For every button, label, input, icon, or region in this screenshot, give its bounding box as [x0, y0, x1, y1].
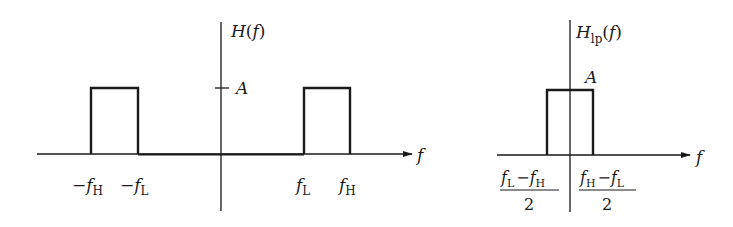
amplitude-a-label: A	[234, 78, 248, 98]
svg-text:2: 2	[602, 195, 612, 214]
svg-text:fH−fL: fH−fL	[579, 168, 625, 190]
positive-passband-pulse	[304, 88, 350, 154]
tick-neg-fl: −fL	[120, 175, 149, 198]
bandpass-plot: H(f) A f −fH −fL fL fH	[37, 21, 426, 211]
right-f-axis-label: f	[694, 147, 705, 167]
diagram-canvas: H(f) A f −fH −fL fL fH Hlp(f) A f fL−fH	[0, 0, 733, 227]
tick-neg-fh: −fH	[72, 175, 103, 198]
tick-neg-half-bandwidth: fL−fH 2	[500, 168, 559, 214]
tick-pos-half-bandwidth: fH−fL 2	[579, 168, 636, 214]
negative-passband-pulse	[91, 88, 138, 154]
left-f-axis-label: f	[415, 145, 426, 165]
tick-fh: fH	[337, 175, 356, 198]
h-lp-of-f-label: Hlp(f)	[575, 22, 622, 46]
lp-amplitude-a-label: A	[583, 67, 597, 87]
svg-text:fL−fH: fL−fH	[500, 168, 545, 190]
tick-fl: fL	[294, 175, 310, 198]
svg-text:2: 2	[524, 195, 534, 214]
lowpass-equivalent-plot: Hlp(f) A f fL−fH 2 fH−fL 2	[497, 20, 705, 214]
h-of-f-label: H(f)	[230, 21, 265, 41]
